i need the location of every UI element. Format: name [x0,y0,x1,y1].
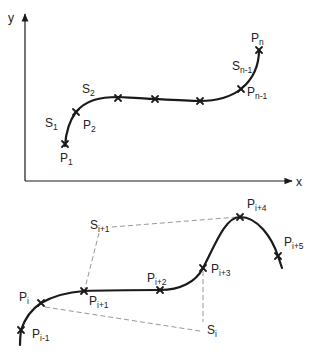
dash-si1-to-pi4 [112,217,238,227]
label-s2: S2 [82,82,95,98]
y-axis-label: y [8,11,14,25]
label-pi+5: Pi+5 [284,235,304,251]
top-figure: y x P1 P2 S1 S2 Pn-1 Sn-1 Pn [8,11,302,189]
label-pi-1: Pi-1 [32,327,50,343]
label-pi: Pi [19,290,29,306]
label-pi+1: Pi+1 [89,294,109,310]
label-p2: P2 [83,118,96,134]
label-sn-1: Sn-1 [232,59,253,75]
point-marker-p2 [73,109,79,115]
x-axis-label: x [296,175,302,189]
bottom-figure: Pi-1 Pi Pi+1 Pi+2 Pi+3 Pi+4 Pi+5 Si Si+1 [18,197,304,345]
label-pi+4: Pi+4 [247,197,267,213]
spline-segment-diagram: y x P1 P2 S1 S2 Pn-1 Sn-1 Pn Pi-1 Pi [0,0,314,354]
label-p1: P1 [60,151,73,167]
label-si: Si [207,323,217,339]
label-pn-1: Pn-1 [247,85,268,101]
label-pi+3: Pi+3 [211,262,231,278]
point-marker-pn-1 [238,86,244,92]
label-pi+2: Pi+2 [147,271,167,287]
label-s1: S1 [45,116,58,132]
dash-si1-to-pi1 [85,233,99,288]
dash-pi-to-si [45,307,200,331]
label-si+1: Si+1 [90,218,110,234]
label-pn: Pn [251,31,264,47]
